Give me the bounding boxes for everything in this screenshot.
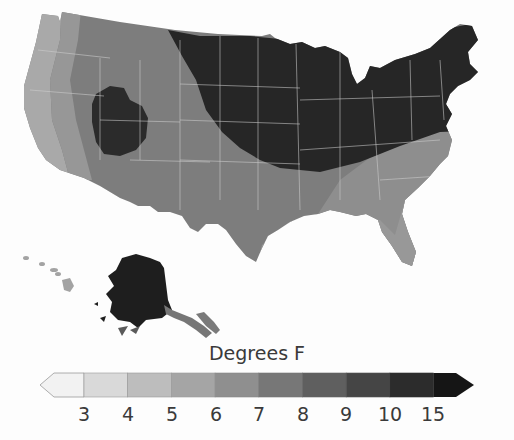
legend-bin-below-3 xyxy=(40,373,84,397)
legend-tick-10: 10 xyxy=(378,403,402,425)
legend-bin-5-6 xyxy=(171,373,215,397)
hawaii-inset xyxy=(23,256,74,292)
legend-tick-8: 8 xyxy=(297,403,309,425)
legend-tick-3: 3 xyxy=(78,403,90,425)
legend-bin-7-8 xyxy=(259,373,303,397)
legend-tick-5: 5 xyxy=(166,403,178,425)
legend-tick-7: 7 xyxy=(253,403,265,425)
legend-tick-6: 6 xyxy=(210,403,222,425)
legend-bin-4-5 xyxy=(128,373,172,397)
legend-bin-9-10 xyxy=(346,373,390,397)
legend: Degrees F 3 4 5 6 7 8 9 10 15 xyxy=(0,340,514,440)
legend-bin-10-15 xyxy=(390,373,434,397)
legend-bin-3-4 xyxy=(84,373,128,397)
legend-tick-9: 9 xyxy=(340,403,352,425)
us-choropleth-map xyxy=(0,0,514,345)
legend-color-bar xyxy=(40,372,474,398)
contiguous-us xyxy=(0,0,514,345)
legend-bin-6-7 xyxy=(215,373,259,397)
legend-title: Degrees F xyxy=(0,342,514,364)
alaska-inset xyxy=(94,254,220,338)
legend-bin-8-9 xyxy=(303,373,347,397)
legend-tick-4: 4 xyxy=(122,403,134,425)
legend-bin-above-15 xyxy=(434,373,474,397)
legend-tick-15: 15 xyxy=(421,403,445,425)
